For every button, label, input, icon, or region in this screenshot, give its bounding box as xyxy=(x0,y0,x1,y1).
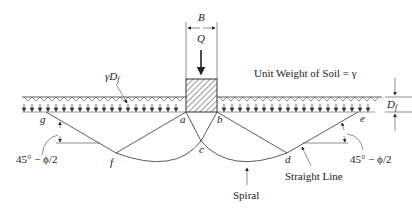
angle-left-label: 45° − ϕ/2 xyxy=(16,153,57,165)
label-Df: Df xyxy=(386,98,399,112)
straight-line-label: Straight Line xyxy=(285,170,343,182)
point-a: a xyxy=(180,113,186,125)
angle-right: 45° − ϕ/2 xyxy=(303,123,391,165)
point-g: g xyxy=(40,113,46,125)
label-B: B xyxy=(198,11,205,23)
surcharge-label: γDf xyxy=(105,70,127,103)
unit-weight-label: Unit Weight of Soil = γ xyxy=(254,67,357,79)
label-Q: Q xyxy=(197,32,205,44)
point-f: f xyxy=(110,156,115,168)
spiral-label: Spiral xyxy=(233,189,259,201)
point-c: c xyxy=(199,143,204,155)
angle-left: 45° − ϕ/2 xyxy=(16,122,100,165)
surcharge-arrows-right xyxy=(217,104,375,112)
spiral-callout: Spiral xyxy=(233,168,259,201)
point-b: b xyxy=(217,113,223,125)
load-arrow: Q xyxy=(197,32,205,74)
footing xyxy=(186,79,217,112)
point-e: e xyxy=(360,112,365,124)
label-gamma-df: γDf xyxy=(105,70,121,84)
point-d: d xyxy=(285,153,291,165)
straight-line-callout: Straight Line xyxy=(285,147,343,182)
surcharge-arrows-left xyxy=(22,104,186,112)
bearing-capacity-diagram: B Q γDf Unit Weight of Soil = γ Df xyxy=(0,0,412,211)
angle-right-label: 45° − ϕ/2 xyxy=(350,153,391,165)
depth-dimension: Df xyxy=(385,78,412,131)
